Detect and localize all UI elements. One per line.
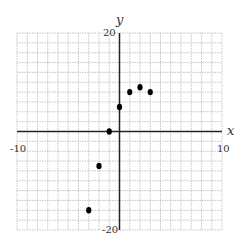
data-point [86, 207, 91, 213]
y-axis-label: y [115, 12, 124, 27]
chart-svg: x y -10 10 20 -20 [0, 0, 245, 247]
data-point [117, 104, 122, 110]
data-point [137, 84, 142, 90]
data-point [96, 163, 101, 169]
x-max-tick-label: 10 [217, 143, 230, 154]
y-max-tick-label: 20 [103, 27, 116, 38]
x-min-tick-label: -10 [10, 143, 26, 154]
data-point [107, 128, 112, 134]
scatter-chart: x y -10 10 20 -20 [0, 0, 245, 247]
data-point [127, 89, 132, 95]
x-axis-label: x [227, 123, 235, 138]
data-point [148, 89, 153, 95]
y-min-tick-label: -20 [102, 224, 118, 235]
